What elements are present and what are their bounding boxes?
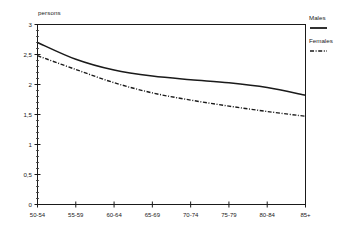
y-tick-label: 0	[16, 201, 32, 208]
legend-entry-females-label: Females	[309, 37, 333, 44]
x-tick-label: 55-59	[59, 212, 93, 218]
plot-area	[0, 0, 350, 234]
y-tick-label: 2,5	[16, 51, 32, 58]
x-tick-label: 65-69	[135, 212, 169, 218]
series-line-males	[38, 43, 306, 96]
data-series-group	[38, 43, 306, 117]
y-tick-label: 2	[16, 81, 32, 88]
line-chart-figure: persons Males Females 00,511,522,53 50-5…	[0, 0, 350, 234]
x-tick-label: 50-54	[21, 212, 55, 218]
legend-entry-males-label: Males	[309, 14, 326, 21]
series-line-females	[38, 56, 306, 117]
y-tick-label: 1,5	[16, 111, 32, 118]
x-tick-label: 75-79	[212, 212, 246, 218]
y-tick-label: 3	[16, 21, 32, 28]
y-tick-label: 0,5	[16, 171, 32, 178]
x-tick-label: 85+	[289, 212, 323, 218]
x-tick-label: 80-84	[250, 212, 284, 218]
axes-group	[38, 24, 307, 205]
y-tick-label: 1	[16, 141, 32, 148]
x-tick-label: 60-64	[97, 212, 131, 218]
x-tick-label: 70-74	[174, 212, 208, 218]
